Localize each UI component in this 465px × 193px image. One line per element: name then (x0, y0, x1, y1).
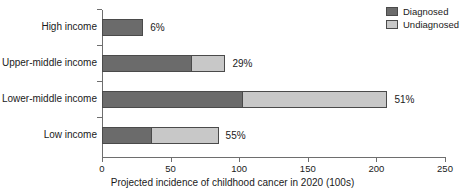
x-axis-tick (308, 157, 309, 162)
x-axis-tick-label: 200 (368, 163, 384, 174)
x-axis-tick-label: 250 (437, 163, 453, 174)
x-axis-tick (171, 157, 172, 162)
bar-value-label: 6% (150, 19, 164, 36)
bar-value-label: 55% (226, 127, 246, 144)
bar-segment-undiagnosed[interactable] (242, 91, 387, 108)
legend-swatch-undiagnosed (386, 20, 398, 29)
bar-segment-diagnosed[interactable] (102, 91, 242, 108)
bar-value-label: 29% (232, 55, 252, 72)
bar-segment-undiagnosed[interactable] (151, 127, 218, 144)
x-axis-tick (239, 157, 240, 162)
x-axis-tick (445, 157, 446, 162)
x-axis-tick-label: 150 (300, 163, 316, 174)
bar-group[interactable] (102, 127, 219, 144)
category-label: Low income (44, 129, 97, 141)
legend-item-undiagnosed[interactable]: Undiagnosed (386, 19, 459, 30)
bar-segment-diagnosed[interactable] (102, 127, 151, 144)
legend-swatch-diagnosed (386, 7, 398, 16)
chart-legend: Diagnosed Undiagnosed (386, 6, 459, 30)
bar-group[interactable] (102, 91, 387, 108)
category-label: Lower-middle income (2, 93, 97, 105)
y-axis-tick (97, 45, 102, 46)
category-label: High income (41, 21, 97, 33)
x-axis-line (102, 157, 446, 158)
bar-group[interactable] (102, 19, 143, 36)
bar-segment-diagnosed[interactable] (102, 55, 191, 72)
bar-value-label: 51% (394, 91, 414, 108)
x-axis-tick (376, 157, 377, 162)
x-axis-tick-label: 100 (231, 163, 247, 174)
bar-segment-diagnosed[interactable] (102, 19, 143, 36)
bar-segment-undiagnosed[interactable] (191, 55, 225, 72)
legend-label-diagnosed: Diagnosed (403, 7, 448, 17)
y-axis-tick (97, 81, 102, 82)
legend-label-undiagnosed: Undiagnosed (403, 20, 459, 30)
legend-item-diagnosed[interactable]: Diagnosed (386, 6, 448, 17)
bar-group[interactable] (102, 55, 225, 72)
y-axis-tick (97, 117, 102, 118)
x-axis-tick-label: 0 (99, 163, 104, 174)
category-label: Upper-middle income (2, 57, 97, 69)
x-axis-title: Projected incidence of childhood cancer … (0, 177, 465, 189)
x-axis-tick (102, 157, 103, 162)
y-axis-tick (97, 9, 102, 10)
chart-container: Diagnosed Undiagnosed High incomeUpper-m… (0, 0, 465, 193)
x-axis-tick-label: 50 (165, 163, 176, 174)
